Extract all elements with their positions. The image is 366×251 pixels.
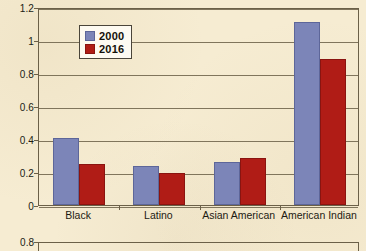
bar-group xyxy=(294,9,346,205)
gridline xyxy=(39,207,358,208)
legend-swatch-2016-icon xyxy=(85,44,95,54)
bar-2000-black xyxy=(53,138,79,205)
bar-2016-asian-american xyxy=(240,158,266,205)
x-axis-label-american-indian: American Indian xyxy=(281,209,357,221)
x-axis-category-labels: BlackLatinoAsian AmericanAmerican Indian xyxy=(38,209,359,227)
y-axis: 00.20.40.60.811.2 xyxy=(0,8,34,206)
y-axis-tick-label: 0.6 xyxy=(2,102,34,113)
x-axis-label-black: Black xyxy=(65,209,91,221)
y-axis-tick-label: 0.4 xyxy=(2,135,34,146)
next-chart-partial: 0.8 xyxy=(0,232,366,251)
x-axis-label-asian-american: Asian American xyxy=(202,209,275,221)
plot-area: 2000 2016 xyxy=(38,8,359,206)
next-chart-plot-area xyxy=(38,242,359,251)
bar-2016-latino xyxy=(159,173,185,205)
y-axis-tick-label: 0 xyxy=(2,201,34,212)
bar-2000-asian-american xyxy=(214,162,240,205)
bar-chart: 00.20.40.60.811.2 2000 2016 BlackLatinoA… xyxy=(0,0,366,228)
legend: 2000 2016 xyxy=(79,25,132,59)
bar-2016-black xyxy=(79,164,105,205)
legend-swatch-2000-icon xyxy=(85,31,95,41)
legend-item-2000: 2000 xyxy=(85,29,124,42)
bar-2000-american-indian xyxy=(294,22,320,205)
y-axis-tick-label: 0.2 xyxy=(2,168,34,179)
bar-group xyxy=(133,9,185,205)
next-chart-ytick-label: 0.8 xyxy=(2,237,34,248)
legend-label-2016: 2016 xyxy=(99,43,124,55)
bar-2000-latino xyxy=(133,166,159,205)
bar-group xyxy=(214,9,266,205)
y-axis-tick-label: 1 xyxy=(2,36,34,47)
y-axis-tick-label: 1.2 xyxy=(2,3,34,14)
x-axis-label-latino: Latino xyxy=(144,209,173,221)
legend-item-2016: 2016 xyxy=(85,42,124,55)
legend-label-2000: 2000 xyxy=(99,30,124,42)
bar-2016-american-indian xyxy=(320,59,346,205)
chart-page: 00.20.40.60.811.2 2000 2016 BlackLatinoA… xyxy=(0,0,366,251)
y-axis-tick-label: 0.8 xyxy=(2,69,34,80)
